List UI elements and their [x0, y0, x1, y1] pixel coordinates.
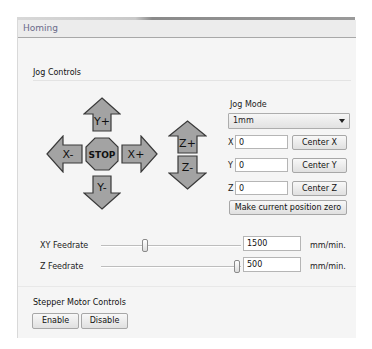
jog-x-plus-button[interactable]: X+	[121, 135, 158, 173]
panel-title: Homing	[23, 23, 58, 33]
y-axis-label: Y	[228, 161, 233, 170]
stop-label: STOP	[89, 150, 116, 160]
enable-stepper-button[interactable]: Enable	[32, 313, 79, 329]
disable-stepper-button[interactable]: Disable	[81, 313, 128, 329]
jog-stop-button[interactable]: STOP	[85, 137, 119, 171]
x-minus-label: X-	[63, 148, 74, 161]
jog-y-minus-button[interactable]: Y-	[83, 175, 121, 210]
z-feedrate-label: Z Feedrate	[40, 262, 83, 271]
z-feedrate-input[interactable]: 500	[243, 257, 301, 272]
center-x-button[interactable]: Center X	[292, 135, 347, 150]
center-y-button[interactable]: Center Y	[292, 158, 347, 173]
center-z-button[interactable]: Center Z	[292, 181, 347, 196]
panel-header: Homing	[18, 20, 356, 38]
xy-feedrate-label: XY Feedrate	[40, 241, 88, 250]
jog-separator	[33, 80, 351, 81]
z-position-input[interactable]: 0	[235, 181, 288, 195]
xy-feedrate-slider-handle[interactable]	[142, 239, 148, 252]
z-axis-label: Z	[228, 184, 233, 193]
x-axis-label: X	[228, 138, 233, 147]
y-minus-label: Y-	[96, 181, 106, 194]
y-position-input[interactable]: 0	[235, 158, 288, 172]
zero-position-button[interactable]: Make current position zero	[229, 200, 347, 215]
jog-z-minus-button[interactable]: Z-	[168, 155, 207, 190]
jog-mode-select[interactable]: 1mm	[228, 113, 350, 129]
z-feedrate-slider-handle[interactable]	[234, 260, 240, 273]
x-position-input[interactable]: 0	[235, 135, 288, 149]
z-feedrate-slider[interactable]	[101, 266, 241, 268]
jog-mode-value: 1mm	[233, 116, 254, 125]
jog-y-plus-button[interactable]: Y+	[83, 97, 121, 132]
jog-z-plus-button[interactable]: Z+	[168, 120, 207, 154]
z-plus-label: Z+	[179, 137, 196, 150]
y-plus-label: Y+	[93, 115, 110, 128]
chevron-down-icon	[339, 119, 345, 123]
homing-panel: Homing Jog Controls Y+ X- STOP X+ Y- Z+ …	[17, 20, 356, 338]
jog-mode-label: Jog Mode	[230, 100, 267, 109]
jog-controls-title: Jog Controls	[33, 68, 81, 77]
xy-feedrate-input[interactable]: 1500	[243, 236, 301, 251]
stepper-controls-title: Stepper Motor Controls	[33, 298, 126, 307]
x-plus-label: X+	[128, 148, 145, 161]
xy-feedrate-unit: mm/min.	[310, 241, 346, 250]
stepper-separator	[18, 286, 356, 287]
z-minus-label: Z-	[182, 161, 193, 174]
xy-feedrate-slider[interactable]	[101, 245, 241, 247]
z-feedrate-unit: mm/min.	[310, 262, 346, 271]
jog-x-minus-button[interactable]: X-	[46, 135, 83, 173]
